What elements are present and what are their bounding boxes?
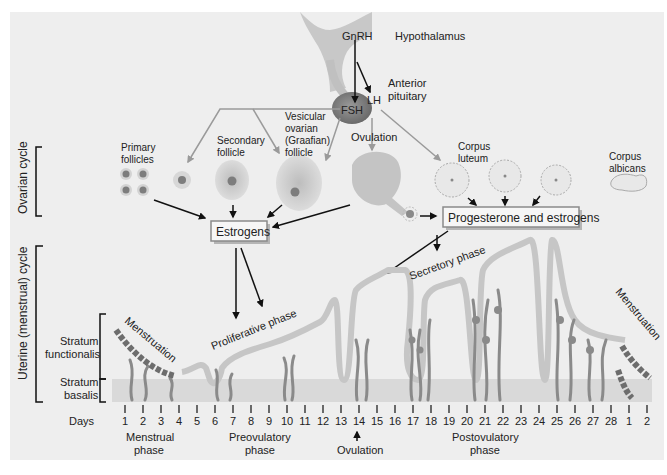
primary-follicles-label-2: follicles: [121, 154, 154, 165]
graafian-follicle-label-4: follicle: [285, 147, 313, 158]
day-label: 24: [533, 415, 545, 427]
day-label: 15: [371, 415, 383, 427]
anterior-pituitary-label-2: pituitary: [388, 90, 427, 102]
corpus-albicans: [611, 174, 647, 191]
day-label: 25: [551, 415, 563, 427]
stratum-basalis-label-1: Stratum: [60, 376, 99, 388]
lh-label: LH: [367, 94, 381, 106]
corpus-albicans-label-1: Corpus: [609, 151, 641, 162]
preovulatory-phase-label-2: phase: [245, 444, 275, 456]
day-label: 2: [140, 415, 146, 427]
day-label: 7: [230, 415, 236, 427]
day-label: 14: [353, 415, 365, 427]
hypothalamus-label: Hypothalamus: [395, 30, 466, 42]
day-label: 6: [212, 415, 218, 427]
secondary-follicle-label-2: follicle: [217, 147, 245, 158]
days-timeline: Days 12345678910111213141516171819202122…: [69, 405, 650, 456]
side-brackets: [36, 147, 106, 402]
estrogens-label: Estrogens: [216, 225, 270, 239]
proliferative-phase-label: Proliferative phase: [209, 307, 298, 352]
day-label: 18: [425, 415, 437, 427]
corpus-luteum-label-1: Corpus: [458, 141, 490, 152]
secondary-follicle: [215, 160, 249, 200]
hypothalamus-pituitary: GnRH Hypothalamus Anterior pituitary FSH…: [300, 12, 466, 124]
postovulatory-phase-label-2: phase: [470, 444, 500, 456]
ovulation-stage-label: Ovulation: [351, 131, 397, 143]
day-label: 19: [443, 415, 455, 427]
stratum-basalis-label-2: basalis: [64, 389, 99, 401]
day-label: 27: [587, 415, 599, 427]
day-label: 13: [335, 415, 347, 427]
graafian-follicle-label-2: ovarian: [285, 123, 318, 134]
day-label: 3: [158, 415, 164, 427]
day-label: 26: [569, 415, 581, 427]
stratum-functionalis-label-2: functionalis: [45, 348, 101, 360]
progesterone-label: Progesterone and estrogens: [448, 211, 599, 225]
postovulatory-phase-label-1: Postovulatory: [452, 431, 519, 443]
primary-follicles: [120, 168, 149, 196]
progesterone-box: Progesterone and estrogens: [443, 207, 599, 230]
preovulatory-phase-label-1: Preovulatory: [229, 431, 291, 443]
graafian-follicle: [276, 155, 322, 211]
fsh-label: FSH: [341, 104, 363, 116]
menstruation-start-label: Menstruation: [123, 314, 179, 364]
fsh-to-graafian-arrow: [253, 109, 279, 153]
endometrium: Menstruation Proliferative phase Secreto…: [112, 240, 664, 402]
ovarian-stages: Primary follicles Secondary follicle Ves…: [120, 111, 647, 221]
anterior-pituitary-label-1: Anterior: [388, 77, 427, 89]
day-label: 21: [479, 415, 491, 427]
uterine-cycle-label: Uterine (menstrual) cycle: [16, 246, 30, 380]
graafian-follicle-label-1: Vesicular: [285, 111, 326, 122]
day-label: 5: [194, 415, 200, 427]
day-label: 4: [176, 415, 182, 427]
gnrh-label: GnRH: [342, 30, 373, 42]
corpus-luteum-3: [541, 165, 571, 195]
secondary-follicle-label-1: Secondary: [217, 135, 265, 146]
day-label: 1: [626, 415, 632, 427]
day-label: 16: [389, 415, 401, 427]
day-label: 11: [299, 415, 310, 427]
corpus-albicans-label-2: albicans: [609, 163, 646, 174]
corpus-luteum-2: [489, 160, 521, 192]
corpus-luteum-label-2: luteum: [458, 153, 488, 164]
day-label: 28: [605, 415, 617, 427]
ovulating-follicle: [352, 152, 417, 221]
days-label: Days: [69, 415, 95, 427]
day-label: 8: [248, 415, 254, 427]
corpus-luteum-1: [435, 163, 469, 197]
secretory-phase-label: Secretory phase: [408, 243, 487, 282]
day-label: 23: [515, 415, 527, 427]
day-label: 12: [317, 415, 329, 427]
menstrual-phase-label-1: Menstrual: [126, 431, 174, 443]
gnrh-lh-arrow: [357, 62, 370, 92]
primary-follicles-label-1: Primary: [121, 142, 155, 153]
day-label: 10: [281, 415, 293, 427]
early-secondary-follicle: [173, 171, 191, 189]
graafian-follicle-label-3: (Graafian): [285, 135, 330, 146]
day-label: 20: [461, 415, 473, 427]
menstruation-end-label: Menstruation: [613, 286, 663, 342]
day-label: 9: [266, 415, 272, 427]
day-label: 22: [497, 415, 509, 427]
stratum-functionalis-label-1: Stratum: [60, 335, 99, 347]
estrogens-box: Estrogens: [211, 221, 270, 244]
menstrual-cycle-diagram: GnRH Hypothalamus Anterior pituitary FSH…: [0, 0, 667, 475]
day-label: 1: [122, 415, 128, 427]
day-label: 2: [644, 415, 650, 427]
ovulation-day-label: Ovulation: [337, 444, 383, 456]
ovarian-cycle-label: Ovarian cycle: [16, 141, 30, 214]
day-label: 17: [407, 415, 419, 427]
menstrual-phase-label-2: phase: [134, 444, 164, 456]
